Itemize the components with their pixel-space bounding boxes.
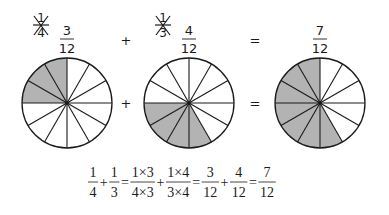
second-original-fraction: 1 3 <box>155 11 171 40</box>
equals-sign: = <box>121 175 129 190</box>
plus-sign: + <box>157 175 165 190</box>
fraction: 312 <box>202 165 219 200</box>
fraction-numerator: 4 <box>235 165 242 180</box>
middle-plus-sign: + <box>121 96 132 111</box>
fraction-numerator: 1×3 <box>132 165 154 180</box>
fraction: 1×43×4 <box>166 165 191 200</box>
top-equals-sign: = <box>250 33 261 48</box>
fraction-denominator: 4×3 <box>132 185 154 200</box>
fraction-denominator: 3 <box>159 26 167 40</box>
fraction-denominator: 4 <box>37 26 45 40</box>
fraction: 13 <box>109 165 119 200</box>
fraction-numerator: 1 <box>37 11 45 25</box>
plus-sign: + <box>221 175 229 190</box>
fraction-numerator: 7 <box>316 23 324 38</box>
fraction: 412 <box>230 165 247 200</box>
middle-equals-sign: = <box>250 96 261 111</box>
equation: 14+13=1×34×3+1×43×4=312+412=712 <box>88 165 276 200</box>
fraction: 1×34×3 <box>130 165 155 200</box>
result-fraction: 7 12 <box>312 23 329 56</box>
fraction-numerator: 1×4 <box>167 165 189 180</box>
fraction-numerator: 3 <box>63 23 71 38</box>
fraction: 712 <box>258 165 275 200</box>
equals-sign: = <box>249 175 257 190</box>
fraction-denominator: 12 <box>232 185 246 200</box>
pie-circle-result <box>275 58 365 148</box>
fraction-denominator: 3×4 <box>167 185 189 200</box>
fraction-denominator: 12 <box>312 41 329 56</box>
fraction-addition-diagram: 1 4 3 12 + 1 3 4 12 = 7 12 + = <box>0 0 389 215</box>
fraction-numerator: 4 <box>185 23 193 38</box>
pie-circle-quarter <box>22 58 112 148</box>
fraction-denominator: 12 <box>59 41 76 56</box>
fraction: 14 <box>88 165 98 200</box>
first-converted-fraction: 3 12 <box>59 23 76 56</box>
fraction-numerator: 3 <box>207 165 214 180</box>
pie-circle-third <box>144 58 234 148</box>
fraction-denominator: 12 <box>260 185 274 200</box>
fraction-numerator: 1 <box>111 165 118 180</box>
fraction-numerator: 1 <box>90 165 97 180</box>
fraction-denominator: 12 <box>203 185 217 200</box>
fraction-denominator: 12 <box>181 41 198 56</box>
second-converted-fraction: 4 12 <box>181 23 198 56</box>
first-original-fraction: 1 4 <box>33 11 49 40</box>
fraction-numerator: 1 <box>159 11 167 25</box>
plus-sign: + <box>100 175 108 190</box>
equals-sign: = <box>192 175 200 190</box>
fraction-numerator: 7 <box>264 165 271 180</box>
fraction-denominator: 3 <box>111 185 118 200</box>
fraction-denominator: 4 <box>90 185 97 200</box>
top-plus-sign: + <box>121 33 132 48</box>
